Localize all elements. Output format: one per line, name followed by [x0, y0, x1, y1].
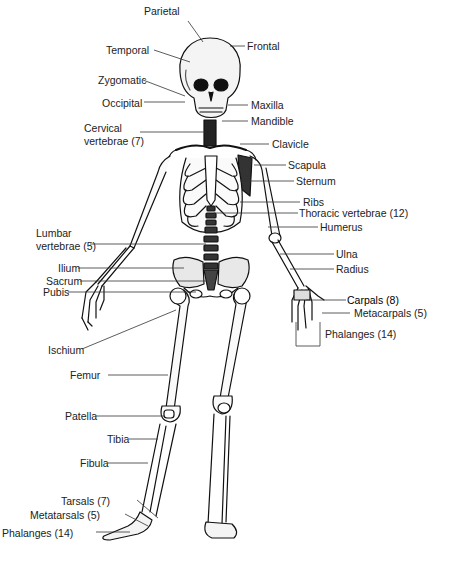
label-humerus: Humerus [320, 221, 363, 233]
label-sternum: Sternum [296, 175, 336, 187]
label-metatarsals: Metatarsals (5) [30, 509, 100, 521]
label-thoracic-vertebrae: Thoracic vertebrae (12) [299, 207, 408, 219]
label-lumbar-line1: Lumbar [36, 227, 96, 240]
label-frontal: Frontal [247, 40, 280, 52]
label-mandible: Mandible [251, 115, 294, 127]
label-tarsals: Tarsals (7) [61, 495, 110, 507]
label-ischium: Ischium [48, 344, 84, 356]
skull [180, 38, 240, 118]
label-ilium: Ilium [58, 262, 80, 274]
label-femur: Femur [70, 369, 100, 381]
label-cervical-line2: vertebrae (7) [84, 135, 144, 148]
label-clavicle: Clavicle [272, 138, 309, 150]
spine [204, 206, 218, 269]
label-maxilla: Maxilla [251, 99, 284, 111]
label-pubis: Pubis [43, 286, 69, 298]
label-tibia: Tibia [107, 433, 129, 445]
label-radius: Radius [336, 263, 369, 275]
label-patella: Patella [65, 410, 97, 422]
label-metacarpals: Metacarpals (5) [354, 307, 427, 319]
right-leg [103, 288, 189, 540]
label-scapula: Scapula [288, 159, 326, 171]
label-lumbar-vertebrae: Lumbar vertebrae (5) [36, 227, 96, 252]
label-occipital: Occipital [102, 97, 142, 109]
label-fibula: Fibula [80, 457, 109, 469]
label-temporal: Temporal [106, 44, 149, 56]
label-parietal: Parietal [144, 5, 180, 17]
skeleton-diagram: Parietal Temporal Zygomatic Occipital Fr… [0, 0, 455, 563]
cervical-spine [204, 120, 216, 146]
label-phalanges-hand: Phalanges (14) [325, 328, 396, 340]
label-cervical-vertebrae: Cervical vertebrae (7) [84, 122, 144, 147]
label-ulna: Ulna [336, 248, 358, 260]
label-lumbar-line2: vertebrae (5) [36, 240, 96, 253]
label-cervical-line1: Cervical [84, 122, 144, 135]
label-zygomatic: Zygomatic [98, 74, 146, 86]
label-carpals: Carpals (8) [347, 294, 399, 306]
left-leg [205, 288, 250, 538]
label-phalanges-foot: Phalanges (14) [2, 527, 73, 539]
